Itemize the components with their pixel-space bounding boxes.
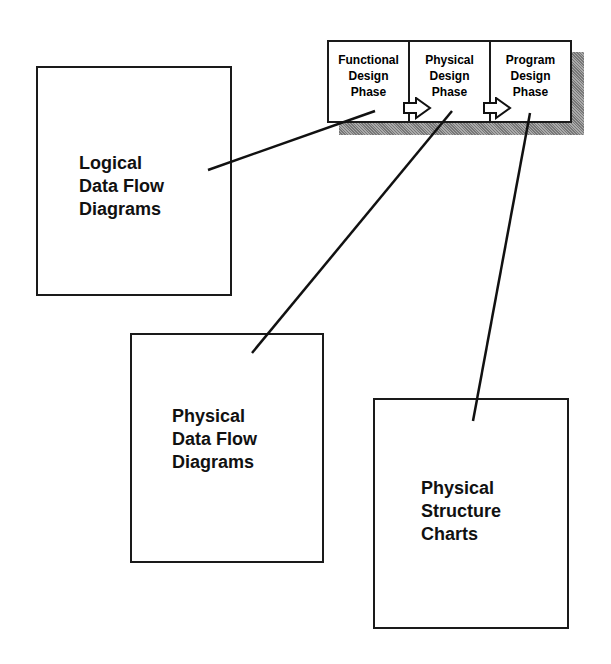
connector-physical-dfd [252,111,452,353]
connector-logical [208,111,375,170]
connector-lines [0,0,611,664]
connector-structure [473,113,530,421]
